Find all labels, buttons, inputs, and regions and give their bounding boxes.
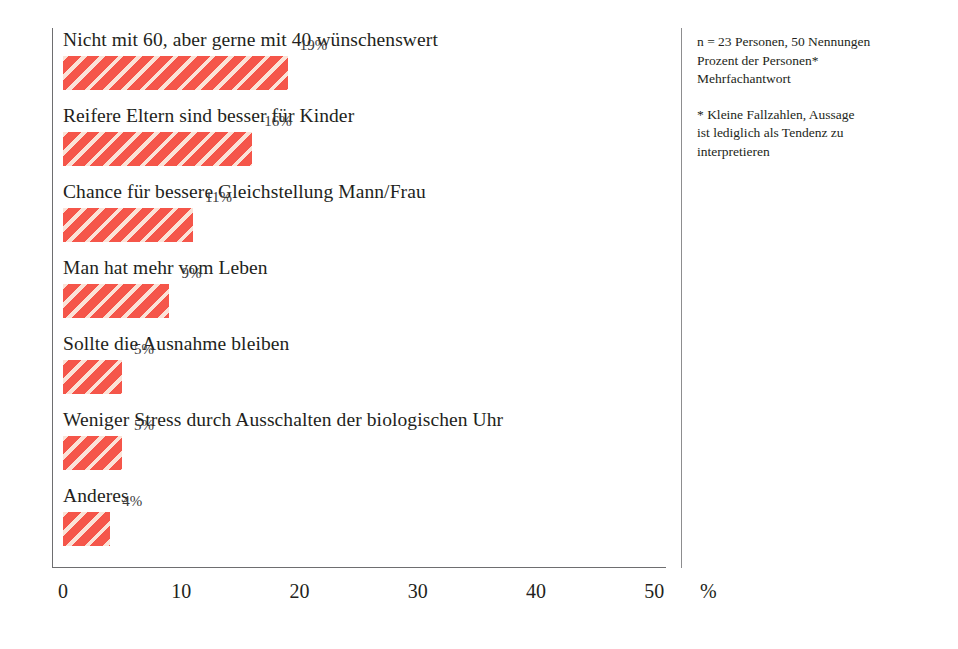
x-axis-tick-label: 10 (171, 578, 191, 604)
note-line: ist lediglich als Tendenz zu (697, 124, 947, 143)
x-axis-line (52, 567, 666, 568)
x-axis-tick-label: 30 (408, 578, 428, 604)
bar-category-label: Anderes (63, 484, 129, 508)
x-axis-tick-label: 50 (644, 578, 664, 604)
bar[interactable] (63, 208, 193, 242)
note-line: Prozent der Personen* (697, 52, 947, 71)
x-axis-unit-label: % (700, 578, 717, 604)
bar[interactable] (63, 56, 288, 90)
notes-panel: n = 23 Personen, 50 NennungenProzent der… (697, 33, 947, 161)
bar-value-label: 16% (264, 112, 292, 130)
x-axis-ticks: % 01020304050 (0, 578, 958, 608)
bar-wrapper (63, 512, 110, 546)
bar-rows: Nicht mit 60, aber gerne mit 40 wünschen… (52, 28, 666, 567)
bar-value-label: 19% (300, 36, 328, 54)
bar-wrapper (63, 360, 122, 394)
notes-panel-divider (681, 28, 682, 568)
note-line: Mehrfachantwort (697, 70, 947, 89)
bar-wrapper (63, 208, 193, 242)
bar[interactable] (63, 284, 169, 318)
bar-category-label: Weniger Stress durch Ausschalten der bio… (63, 408, 503, 432)
bar-category-label: Sollte die Ausnahme bleiben (63, 332, 289, 356)
notes-footnote: * Kleine Fallzahlen, Aussageist lediglic… (697, 106, 947, 162)
bar-category-label: Nicht mit 60, aber gerne mit 40 wünschen… (63, 28, 438, 52)
bar-value-label: 4% (122, 492, 142, 510)
note-line: interpretieren (697, 143, 947, 162)
bar-value-label: 5% (134, 340, 154, 358)
note-line: n = 23 Personen, 50 Nennungen (697, 33, 947, 52)
bar-wrapper (63, 56, 288, 90)
bar-category-label: Reifere Eltern sind besser für Kinder (63, 104, 354, 128)
bar-chart: Nicht mit 60, aber gerne mit 40 wünschen… (0, 0, 958, 649)
bar[interactable] (63, 436, 122, 470)
bar-wrapper (63, 436, 122, 470)
bar[interactable] (63, 132, 252, 166)
bar-value-label: 5% (134, 416, 154, 434)
bar-category-label: Man hat mehr vom Leben (63, 256, 268, 280)
bar-wrapper (63, 132, 252, 166)
bar-category-label: Chance für bessere Gleichstellung Mann/F… (63, 180, 426, 204)
bar-wrapper (63, 284, 169, 318)
note-line: * Kleine Fallzahlen, Aussage (697, 106, 947, 125)
bar-value-label: 9% (181, 264, 201, 282)
x-axis-tick-label: 20 (289, 578, 309, 604)
notes-primary: n = 23 Personen, 50 NennungenProzent der… (697, 33, 947, 89)
x-axis-tick-label: 0 (58, 578, 68, 604)
bar-value-label: 11% (205, 188, 232, 206)
bar[interactable] (63, 360, 122, 394)
x-axis-tick-label: 40 (526, 578, 546, 604)
bar[interactable] (63, 512, 110, 546)
